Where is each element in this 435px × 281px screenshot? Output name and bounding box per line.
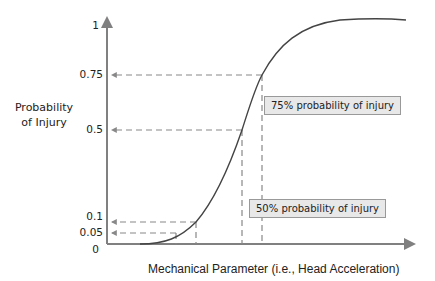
y-axis-label-line1: Probability bbox=[4, 100, 84, 115]
y-tick-0.1: 0.1 bbox=[63, 210, 103, 222]
y-tick-0: 0 bbox=[59, 243, 99, 255]
y-axis-label-line2: of Injury bbox=[4, 115, 84, 130]
x-axis-label: Mechanical Parameter (i.e., Head Acceler… bbox=[148, 262, 399, 276]
y-axis-label: Probability of Injury bbox=[4, 100, 84, 130]
annotation-50-percent: 50% probability of injury bbox=[249, 199, 386, 218]
annotation-75-percent: 75% probability of injury bbox=[264, 96, 401, 115]
y-tick-0.75: 0.75 bbox=[63, 68, 103, 80]
chart-canvas bbox=[0, 0, 435, 281]
y-tick-1: 1 bbox=[59, 19, 99, 31]
y-tick-0.05: 0.05 bbox=[63, 226, 103, 238]
